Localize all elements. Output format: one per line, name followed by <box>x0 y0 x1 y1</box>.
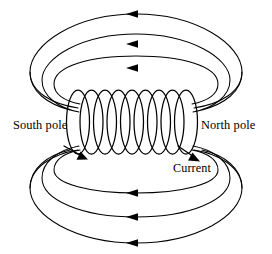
coil-turn <box>175 90 198 154</box>
bottom-field-loop-middle-path <box>42 146 230 217</box>
bottom-field-loop-outer-arrowhead <box>126 239 138 247</box>
solenoid-field-figure: South pole North pole Current <box>0 0 272 254</box>
current-arrow-right <box>178 146 200 162</box>
bottom-field-loop-middle-arrowhead <box>126 213 138 221</box>
current-arrow-left-head <box>77 152 89 160</box>
label-north-pole: North pole <box>201 119 255 131</box>
coil-turn <box>67 90 90 154</box>
coil-turn <box>148 90 171 154</box>
label-current: Current <box>172 162 212 174</box>
top-loop-left-tail <box>30 72 70 110</box>
top-field-loop-inner-arrowhead <box>126 64 138 72</box>
coil-turn <box>94 90 117 154</box>
solenoid-coil <box>67 90 198 154</box>
coil-turn <box>161 90 184 154</box>
coil-turn <box>134 90 157 154</box>
top-field-loop-middle-arrowhead <box>126 40 138 48</box>
top-loop-right-tail <box>202 72 242 110</box>
label-south-pole: South pole <box>13 119 67 131</box>
bottom-field-loop-middle <box>42 146 230 221</box>
top-field-loop-outer-arrowhead <box>126 10 138 18</box>
top-field-loop-outer-path <box>30 14 242 108</box>
coil-turn <box>80 90 103 154</box>
top-field-loops <box>30 10 242 112</box>
bottom-field-loop-inner-arrowhead <box>126 189 138 197</box>
coil-turn <box>121 90 144 154</box>
top-field-loop-outer <box>30 10 242 108</box>
coil-turn <box>107 90 130 154</box>
